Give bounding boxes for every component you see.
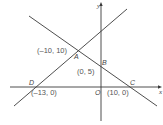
- point-c-label: C: [130, 79, 136, 86]
- point-d-label: D: [29, 79, 34, 86]
- point-b-coord-label: (0, 5): [77, 67, 95, 76]
- origin-label: O: [95, 89, 101, 96]
- coordinate-diagram: y x O (–10, 10) A B (0, 5) C (10, 0) D (…: [0, 0, 163, 125]
- point-d-coord-label: (–13, 0): [31, 88, 57, 97]
- point-c-coord-label: (10, 0): [107, 88, 129, 97]
- x-axis-label: x: [158, 88, 163, 96]
- point-a-label: A: [73, 53, 79, 60]
- point-b-label: B: [102, 59, 107, 66]
- point-a-coord-label: (–10, 10): [37, 46, 68, 55]
